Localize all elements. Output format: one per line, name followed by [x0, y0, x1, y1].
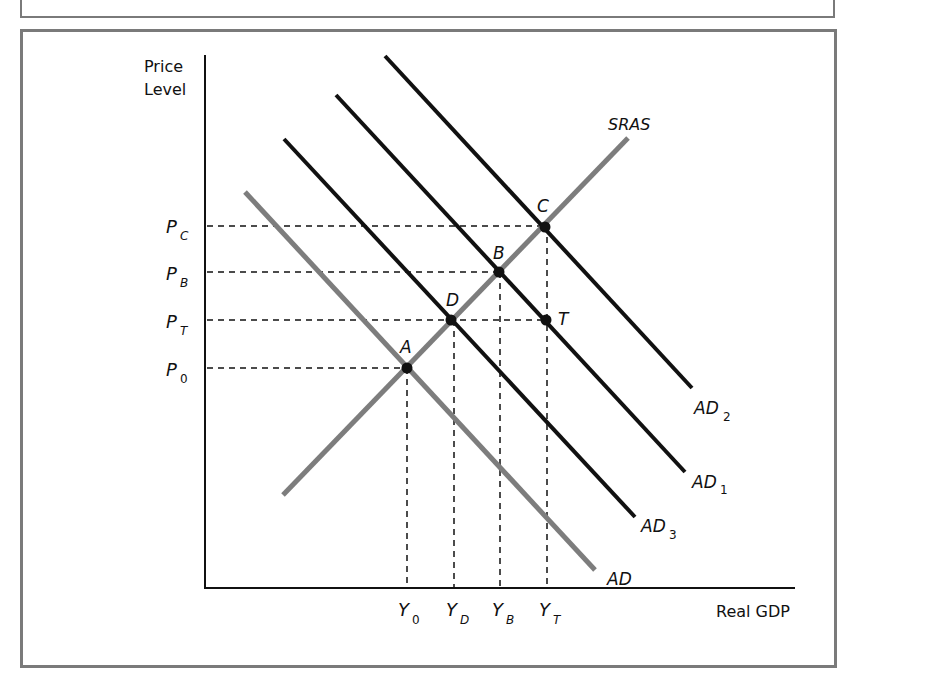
point-t-marker — [541, 315, 552, 326]
ad-curve — [245, 192, 595, 570]
ad1-label: AD 1 — [691, 472, 728, 497]
svg-text:B: B — [506, 613, 514, 627]
point-c-marker — [540, 222, 551, 233]
svg-text:AD: AD — [691, 472, 717, 492]
svg-text:0: 0 — [412, 613, 420, 627]
output-label-y0: Y 0 — [398, 599, 420, 627]
y-axis-label-line1: Price — [144, 57, 183, 76]
y-axis-label-line2: Level — [144, 80, 186, 99]
ad-as-diagram: Price Level Real GDP A D B C T SRAS AD A… — [0, 0, 940, 693]
point-t-label: T — [558, 309, 570, 329]
point-d-label: D — [446, 290, 459, 310]
point-d-marker — [446, 315, 457, 326]
price-label-pc: P C — [166, 216, 189, 243]
x-axis-label: Real GDP — [716, 602, 790, 621]
point-b-label: B — [493, 243, 505, 263]
svg-text:Y: Y — [539, 599, 552, 620]
svg-text:0: 0 — [180, 372, 188, 386]
point-c-label: C — [537, 196, 549, 216]
svg-text:Y: Y — [446, 599, 459, 620]
output-label-yt: Y T — [539, 599, 562, 627]
output-label-yb: Y B — [492, 599, 514, 627]
guide-lines — [207, 226, 547, 588]
svg-text:AD: AD — [693, 398, 719, 418]
point-a-marker — [402, 363, 413, 374]
ad1-curve — [336, 95, 685, 472]
svg-text:Y: Y — [398, 599, 411, 620]
price-label-p0: P 0 — [166, 359, 188, 386]
ad2-label: AD 2 — [693, 398, 731, 424]
svg-text:Y: Y — [492, 599, 505, 620]
sras-label: SRAS — [608, 115, 650, 134]
price-label-pt: P T — [166, 311, 189, 338]
ad1-subscript: 1 — [720, 483, 728, 497]
point-a-label: A — [399, 337, 412, 357]
point-b-marker — [494, 267, 505, 278]
ad-label: AD — [606, 569, 632, 589]
svg-text:B: B — [180, 276, 188, 290]
ad3-curve — [284, 139, 635, 517]
svg-text:P: P — [166, 263, 177, 284]
svg-text:P: P — [166, 216, 177, 237]
ad2-curve — [385, 56, 692, 388]
svg-text:T: T — [180, 324, 189, 338]
output-label-yd: Y D — [446, 599, 469, 627]
svg-text:D: D — [460, 613, 469, 627]
svg-text:C: C — [180, 229, 189, 243]
svg-text:P: P — [166, 359, 177, 380]
ad2-subscript: 2 — [723, 410, 731, 424]
svg-text:AD: AD — [640, 516, 666, 536]
ad3-label: AD 3 — [640, 516, 677, 542]
price-label-pb: P B — [166, 263, 188, 290]
svg-text:P: P — [166, 311, 177, 332]
ad3-subscript: 3 — [669, 528, 677, 542]
svg-text:T: T — [553, 613, 562, 627]
